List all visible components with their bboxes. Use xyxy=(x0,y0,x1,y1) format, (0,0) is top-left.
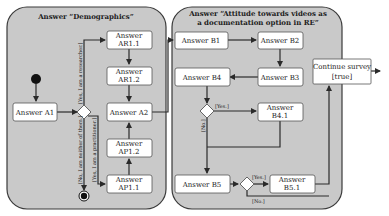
activity-diagram: Answer “Demographics” Answer “Attitude t… xyxy=(0,0,389,216)
initial-node xyxy=(31,74,41,84)
svg-text:Answer B4: Answer B4 xyxy=(182,74,222,82)
attitude-title-line1: Answer “Attitude towards videos as xyxy=(188,9,327,18)
svg-text:Answer: Answer xyxy=(115,68,143,76)
node-b41: Answer B4.1 xyxy=(258,103,303,121)
node-continue-survey: Continue survey [true] xyxy=(313,59,371,84)
guard-b4-no: [No.] xyxy=(200,119,206,132)
svg-text:AP1.2: AP1.2 xyxy=(118,148,140,156)
guard-researcher: [Yes, I am a researcher.] xyxy=(77,42,83,104)
guard-neither: [No, I am neither of them.] xyxy=(77,116,83,184)
attitude-title-line2: a documentation option in RE” xyxy=(197,18,319,27)
svg-text:Answer B3: Answer B3 xyxy=(260,74,299,82)
svg-text:Answer: Answer xyxy=(115,32,143,40)
svg-text:B4.1: B4.1 xyxy=(272,112,288,120)
svg-text:AP1.1: AP1.1 xyxy=(118,184,140,192)
node-b51: Answer B5.1 xyxy=(270,175,315,193)
svg-text:Answer B5: Answer B5 xyxy=(182,181,221,189)
node-b4: Answer B4 xyxy=(175,68,230,86)
svg-text:AR1.2: AR1.2 xyxy=(117,76,139,84)
svg-text:Continue survey: Continue survey xyxy=(313,63,371,71)
svg-text:Answer A2: Answer A2 xyxy=(109,109,148,117)
node-ar12: Answer AR1.2 xyxy=(107,67,152,85)
node-b5: Answer B5 xyxy=(175,175,230,193)
node-a1: Answer A1 xyxy=(13,103,57,121)
final-node-dot xyxy=(81,193,87,199)
demographics-title: Answer “Demographics” xyxy=(37,12,134,21)
guard-b5-yes: [Yes.] xyxy=(252,174,266,180)
guard-b5-no: [No.] xyxy=(252,198,265,204)
node-ar11: Answer AR1.1 xyxy=(107,31,152,49)
svg-text:Answer B1: Answer B1 xyxy=(181,37,220,45)
guard-practitioner: [Yes, I am a practitioner.] xyxy=(91,118,98,182)
node-ap11: Answer AP1.1 xyxy=(107,175,152,193)
node-b3: Answer B3 xyxy=(258,68,303,86)
node-b1: Answer B1 xyxy=(175,32,228,49)
svg-text:Answer: Answer xyxy=(115,176,143,184)
svg-text:Answer B2: Answer B2 xyxy=(260,37,299,45)
node-b2: Answer B2 xyxy=(258,32,303,49)
svg-text:Answer: Answer xyxy=(266,104,294,112)
svg-text:Answer A1: Answer A1 xyxy=(15,109,54,117)
node-a2: Answer A2 xyxy=(107,103,152,121)
svg-text:Answer: Answer xyxy=(278,176,306,184)
guard-b4-yes: [Yes.] xyxy=(215,103,229,109)
svg-text:[true]: [true] xyxy=(332,73,353,81)
svg-text:B5.1: B5.1 xyxy=(284,184,300,192)
svg-text:Answer: Answer xyxy=(115,140,143,148)
node-ap12: Answer AP1.2 xyxy=(107,139,152,157)
svg-text:AR1.1: AR1.1 xyxy=(117,40,139,48)
